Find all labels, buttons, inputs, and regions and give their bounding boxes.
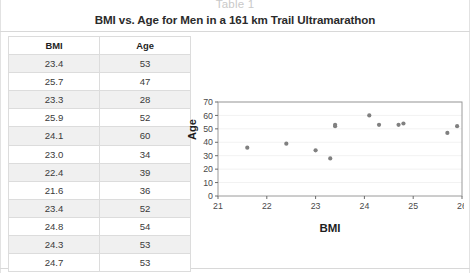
data-point (333, 124, 337, 128)
table-row: 22.439 (9, 163, 191, 181)
data-point (367, 113, 371, 117)
y-tick-label: 10 (203, 178, 213, 188)
cell-bmi: 24.1 (9, 127, 100, 145)
card-top-divider (0, 31, 470, 32)
table-row: 25.747 (9, 73, 191, 91)
y-tick-label: 60 (203, 111, 213, 121)
cell-age: 54 (100, 217, 191, 235)
table-and-chart-figure: Table 1 BMI vs. Age for Men in a 161 km … (0, 0, 470, 273)
y-tick-label: 40 (203, 137, 213, 147)
data-point (396, 123, 400, 127)
card-left-border (0, 0, 1, 273)
table-row: 23.328 (9, 91, 191, 109)
table-row: 24.753 (9, 254, 191, 272)
table-row: 21.636 (9, 181, 191, 199)
cell-age: 36 (100, 181, 191, 199)
cell-age: 53 (100, 55, 191, 73)
cell-age: 47 (100, 73, 191, 91)
plot-frame (218, 102, 462, 196)
cell-bmi: 22.4 (9, 163, 100, 181)
bmi-age-table: BMI Age 23.45325.74723.32825.95224.16023… (8, 36, 191, 272)
cell-bmi: 23.0 (9, 145, 100, 163)
data-point (455, 124, 459, 128)
cell-bmi: 23.3 (9, 91, 100, 109)
cell-age: 39 (100, 163, 191, 181)
cell-age: 28 (100, 91, 191, 109)
scatter-plot: 010203040506070212223242526 (196, 98, 464, 253)
cell-age: 53 (100, 254, 191, 272)
column-header-age: Age (100, 37, 191, 55)
cell-age: 52 (100, 109, 191, 127)
data-point (328, 156, 332, 160)
table-row: 23.452 (9, 199, 191, 217)
table-body: 23.45325.74723.32825.95224.16023.03422.4… (9, 55, 191, 272)
y-tick-label: 70 (203, 98, 213, 107)
data-point (377, 123, 381, 127)
data-point (314, 148, 318, 152)
data-point (401, 121, 405, 125)
cell-bmi: 23.4 (9, 199, 100, 217)
cell-bmi: 25.9 (9, 109, 100, 127)
cell-bmi: 21.6 (9, 181, 100, 199)
x-tick-label: 24 (360, 201, 370, 211)
table-row: 25.952 (9, 109, 191, 127)
table-row: 23.453 (9, 55, 191, 73)
cell-bmi: 23.4 (9, 55, 100, 73)
cell-age: 53 (100, 236, 191, 254)
table-row: 24.854 (9, 217, 191, 235)
cell-age: 60 (100, 127, 191, 145)
x-tick-label: 21 (213, 201, 223, 211)
cell-bmi: 24.8 (9, 217, 100, 235)
y-tick-label: 30 (203, 151, 213, 161)
y-tick-label: 20 (203, 164, 213, 174)
column-header-bmi: BMI (9, 37, 100, 55)
x-tick-label: 23 (311, 201, 321, 211)
cell-age: 52 (100, 199, 191, 217)
x-tick-label: 26 (457, 201, 464, 211)
table-caption: Table 1 (0, 0, 470, 10)
cell-age: 34 (100, 145, 191, 163)
page-title: BMI vs. Age for Men in a 161 km Trail Ul… (0, 13, 470, 26)
cell-bmi: 24.3 (9, 236, 100, 254)
table-row: 24.160 (9, 127, 191, 145)
table-row: 24.353 (9, 236, 191, 254)
cell-bmi: 25.7 (9, 73, 100, 91)
cell-bmi: 24.7 (9, 254, 100, 272)
x-tick-label: 25 (408, 201, 418, 211)
data-point (284, 142, 288, 146)
table-row: 23.034 (9, 145, 191, 163)
data-point (245, 146, 249, 150)
y-tick-label: 50 (203, 124, 213, 134)
table-header-row: BMI Age (9, 37, 191, 55)
x-tick-label: 22 (262, 201, 272, 211)
data-point (445, 131, 449, 135)
y-tick-label: 0 (208, 191, 213, 201)
